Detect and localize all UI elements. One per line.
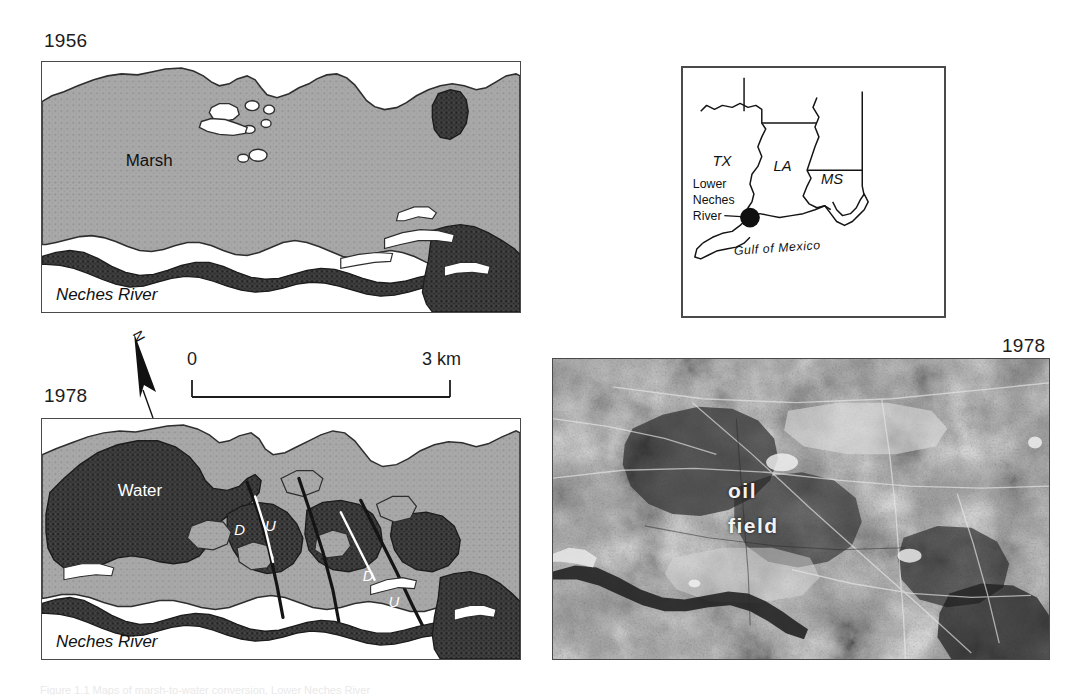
marsh-map-1956-svg: Marsh Neches River	[42, 62, 520, 312]
year-label-1978-photo: 1978	[1002, 335, 1045, 357]
locator-inset-panel: TX LA MS Lower Neches River Gulf of Mexi…	[681, 66, 946, 318]
scale-min-label: 0	[187, 349, 197, 370]
map-panel-1956: Marsh Neches River	[41, 61, 521, 313]
locator-inset-svg: TX LA MS Lower Neches River Gulf of Mexi…	[683, 68, 944, 316]
fault-label-d-2: D	[363, 568, 374, 584]
photo-label-oil: oil	[728, 479, 757, 503]
aerial-photo-panel-1978: oil field	[552, 358, 1050, 660]
marsh-label: Marsh	[126, 151, 173, 170]
fault-label-u-2: U	[389, 594, 400, 610]
fault-label-d-1: D	[234, 522, 245, 538]
neches-river-label-1956: Neches River	[56, 285, 159, 304]
water-map-1978-svg: Water D U D U Neches River	[42, 419, 520, 659]
site-label-line-1: Lower	[693, 177, 727, 191]
figure-root: 1956	[0, 0, 1069, 699]
state-label-tx: TX	[713, 153, 733, 169]
state-label-la: LA	[774, 158, 792, 174]
map-panel-1978: Water D U D U Neches River	[41, 418, 521, 660]
site-label-line-2: Neches	[693, 193, 735, 207]
figure-caption: Figure 1.1 Maps of marsh-to-water conver…	[40, 684, 940, 695]
water-label: Water	[118, 481, 163, 500]
scalebar-rule	[192, 380, 450, 397]
scale-max-label: 3 km	[422, 349, 461, 370]
fault-label-u-1: U	[265, 518, 276, 534]
aerial-photo-svg	[553, 359, 1049, 659]
scale-and-north-group: N 0 3 km	[120, 330, 480, 425]
photo-label-field: field	[728, 514, 779, 538]
site-label-line-3: River	[693, 209, 722, 223]
neches-river-label-1978: Neches River	[56, 632, 159, 651]
year-label-1978-map: 1978	[44, 385, 87, 407]
north-arrow-icon	[134, 333, 156, 418]
scalebar-svg	[120, 330, 480, 425]
photo-bright-area-upper	[784, 403, 947, 455]
aerial-photo-content	[553, 359, 1049, 659]
site-location-dot	[740, 208, 760, 228]
site-leader-line	[724, 216, 741, 217]
state-label-ms: MS	[821, 171, 843, 187]
year-label-1956: 1956	[44, 30, 87, 52]
